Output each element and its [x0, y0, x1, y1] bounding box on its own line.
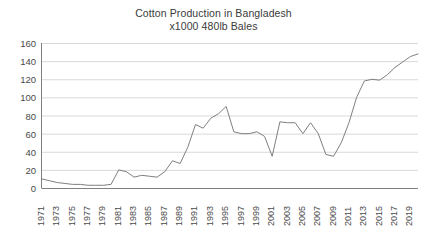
- x-axis-tick-label: 1997: [237, 206, 246, 226]
- x-axis-tick-label: 1971: [37, 206, 46, 226]
- x-axis-tick-label: 1985: [144, 206, 153, 226]
- x-axis-tick-label: 2009: [329, 206, 338, 226]
- x-axis-tick-label: 2003: [283, 206, 292, 226]
- x-axis-tick-label: 1977: [83, 206, 92, 226]
- x-axis-tick-label: 2015: [375, 206, 384, 226]
- x-axis-tick-label: 2001: [267, 206, 276, 226]
- plot-area: 020406080100120140160 197119731975197719…: [0, 0, 427, 230]
- x-axis-tick-label: 1995: [221, 206, 230, 226]
- x-axis-tick-label: 1975: [68, 206, 77, 226]
- x-axis-tick-label: 1973: [52, 206, 61, 226]
- x-axis-tick-label: 1983: [129, 206, 138, 226]
- x-axis-tick-label: 1989: [175, 206, 184, 226]
- x-axis-tick-label: 2019: [405, 206, 414, 226]
- x-axis-tick-labels: 1971197319751977197919811983198519871989…: [0, 0, 427, 230]
- x-axis-tick-label: 1993: [206, 206, 215, 226]
- x-axis-tick-label: 2017: [390, 206, 399, 226]
- x-axis-tick-label: 1987: [160, 206, 169, 226]
- chart-figure: Cotton Production in Bangladesh x1000 48…: [0, 0, 427, 230]
- x-axis-tick-label: 1999: [252, 206, 261, 226]
- x-axis-tick-label: 1991: [190, 206, 199, 226]
- x-axis-tick-label: 2007: [313, 206, 322, 226]
- x-axis-tick-label: 2013: [359, 206, 368, 226]
- x-axis-tick-label: 1979: [98, 206, 107, 226]
- x-axis-tick-label: 2005: [298, 206, 307, 226]
- x-axis-tick-label: 1981: [114, 206, 123, 226]
- x-axis-tick-label: 2011: [344, 207, 353, 226]
